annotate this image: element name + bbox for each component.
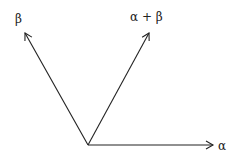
label-alpha-plus-beta: α + β bbox=[130, 10, 163, 24]
label-alpha: α bbox=[218, 139, 226, 153]
vector-diagram: β α + β α bbox=[0, 0, 241, 155]
label-beta: β bbox=[15, 12, 22, 26]
vector-beta bbox=[25, 33, 88, 145]
vector-alpha-plus-beta bbox=[88, 33, 149, 145]
